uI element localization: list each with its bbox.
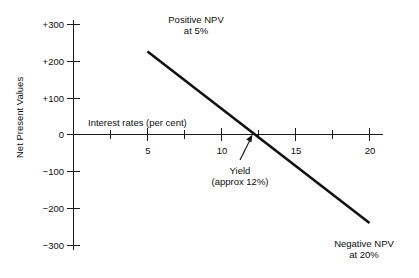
- annotation-positive-npv-line2: at 5%: [148, 25, 244, 36]
- annotation-yield-line1: Yield: [192, 165, 288, 176]
- annotation-negative-npv: Negative NPV at 20%: [316, 238, 412, 260]
- annotation-yield-line2: (approx 12%): [192, 176, 288, 187]
- y-tick-label-neg300: −300: [34, 240, 64, 251]
- y-tick-label-200: +200: [34, 56, 64, 67]
- annotation-negative-npv-line2: at 20%: [316, 249, 412, 260]
- y-tick-label-300: +300: [34, 19, 64, 30]
- npv-chart: Net Present Values +300 +200 +100 0 −100…: [0, 0, 419, 278]
- annotation-positive-npv: Positive NPV at 5%: [148, 14, 244, 36]
- y-tick-label-0: 0: [34, 129, 64, 140]
- annotation-negative-npv-line1: Negative NPV: [316, 238, 412, 249]
- x-tick-label-5: 5: [133, 145, 163, 156]
- x-axis-title: Interest rates (per cent): [88, 117, 187, 128]
- npv-series-line: [148, 52, 370, 224]
- annotation-yield: Yield (approx 12%): [192, 165, 288, 187]
- y-tick-label-100: +100: [34, 93, 64, 104]
- y-tick-label-neg100: −100: [34, 166, 64, 177]
- yield-callout-arrow: [240, 135, 253, 161]
- x-tick-label-20: 20: [355, 145, 385, 156]
- y-tick-label-neg200: −200: [34, 203, 64, 214]
- x-tick-label-15: 15: [281, 145, 311, 156]
- annotation-positive-npv-line1: Positive NPV: [148, 14, 244, 25]
- y-axis-title: Net Present Values: [14, 77, 25, 158]
- x-tick-label-10: 10: [207, 145, 237, 156]
